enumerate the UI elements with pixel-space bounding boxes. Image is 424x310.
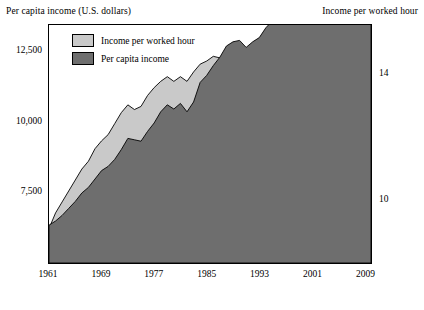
legend-swatch-hourly: [72, 34, 94, 47]
legend-swatch-percapita: [72, 52, 94, 65]
x-tick-4: 1993: [240, 269, 280, 279]
legend-label-hourly: Income per worked hour: [101, 36, 195, 46]
y-right-tick-0: 14: [379, 68, 389, 78]
chart-legend: Income per worked hour Per capita income: [72, 34, 222, 70]
x-tick-0: 1961: [28, 269, 68, 279]
x-tick-5: 2001: [292, 269, 332, 279]
right-axis-title: Income per worked hour: [322, 6, 418, 16]
chart-container: Per capita income (U.S. dollars) Income …: [0, 0, 424, 310]
left-axis-title: Per capita income (U.S. dollars): [6, 6, 131, 16]
y-left-tick-2: 7,500: [21, 186, 42, 196]
legend-item-hourly: Income per worked hour: [72, 34, 222, 47]
x-tick-3: 1985: [187, 269, 227, 279]
y-left-tick-1: 10,000: [16, 116, 42, 126]
x-tick-2: 1977: [134, 269, 174, 279]
x-tick-1: 1969: [81, 269, 121, 279]
y-right-tick-1: 10: [379, 194, 389, 204]
legend-label-percapita: Per capita income: [101, 54, 169, 64]
y-left-tick-0: 12,500: [16, 45, 42, 55]
x-tick-6: 2009: [345, 269, 385, 279]
legend-item-percapita: Per capita income: [72, 52, 222, 65]
